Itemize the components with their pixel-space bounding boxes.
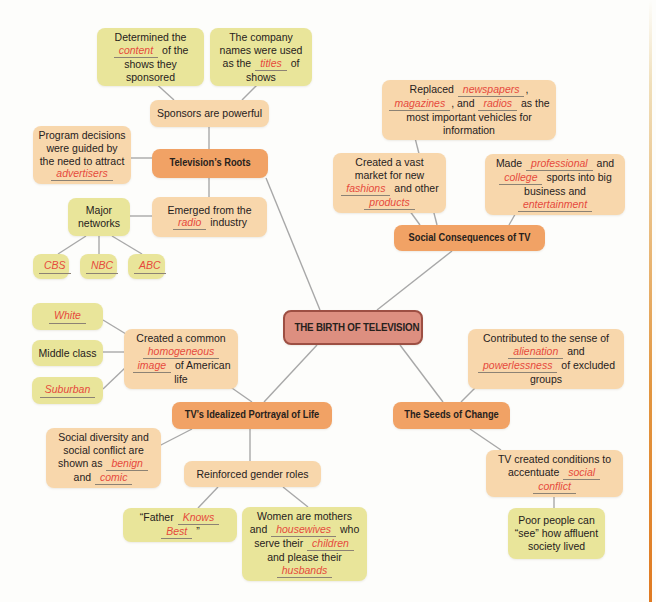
node-homogeneous-image-label: Created a common homogeneous image of Am… [129,332,233,386]
node-middle-class-label: Middle class [37,347,98,360]
node-sponsors-powerful-label: Sponsors are powerful [155,107,264,120]
connector-line [266,178,320,310]
node-contributed-alienation-label: Contributed to the sense of alienation a… [473,332,619,386]
text-segment: Created a vast market for new [355,156,424,181]
text-segment: Created a common [136,332,225,344]
node-seeds-of-change-label: The Seeds of Change [402,409,502,421]
concept-map: Determined the content of the shows they… [0,0,656,602]
text-segment: Program decisions were guided by the nee… [39,129,126,167]
node-white-label: White [37,309,98,323]
node-seeds-of-change: The Seeds of Change [393,402,510,429]
node-abc-label: ABC [133,259,160,273]
text-segment: Emerged from the [167,204,251,216]
text-segment: and [594,157,614,169]
blank-word: NBC [86,260,118,273]
node-major-networks-label: Major networks [73,204,125,230]
text-segment: Major networks [78,204,120,229]
node-women-mothers-label: Women are mothers and housewives who ser… [247,510,362,578]
blank-word: social [563,467,600,480]
text-segment: of American life [172,359,230,385]
node-idealized-portrayal: TV’s Idealized Portrayal of Life [172,402,332,429]
blank-word: benign [106,458,148,471]
node-social-diversity-label: Social diversity and social conflict are… [51,431,156,485]
node-abc: ABC [128,254,165,279]
blank-word: image [133,360,172,373]
blank-word: entertainment [518,199,592,212]
node-birth-of-television: THE BIRTH OF TELEVISION [283,310,423,345]
node-social-consequences-label: Social Consequences of TV [404,232,535,244]
text-segment: “Father [140,511,177,523]
blank-word: conflict [533,481,576,494]
blank-word: husbands [277,565,333,578]
node-major-networks: Major networks [68,198,130,236]
blank-word: CBS [39,260,71,273]
text-segment: Replaced [410,83,457,95]
node-suburban: Suburban [32,377,103,404]
text-segment: Poor people can “see” how affluent socie… [515,514,598,552]
blank-word: alienation [508,346,563,359]
node-idealized-portrayal-label: TV’s Idealized Portrayal of Life [182,409,322,421]
text-segment: Determined the [115,31,187,43]
blank-word: newspapers [458,84,525,97]
blank-word: fashions [341,183,390,196]
node-contributed-alienation: Contributed to the sense of alienation a… [468,329,624,389]
node-father-knows-best: “Father Knows Best ” [123,508,237,542]
node-white: White [32,303,103,330]
text-segment: ” [193,525,199,537]
text-segment: and other [391,182,438,194]
node-women-mothers: Women are mothers and housewives who ser… [242,507,367,581]
connector-line [58,236,86,254]
node-made-sports-label: Made professional and college sports int… [490,157,620,212]
node-social-diversity: Social diversity and social conflict are… [46,428,161,488]
node-replaced-media-label: Replaced newspapers, magazines, and radi… [387,83,551,137]
text-segment: The Seeds of Change [404,409,499,420]
blank-word: products [364,197,414,210]
connector-line [400,345,443,402]
connector-line [377,251,452,310]
node-vast-market: Created a vast market for new fashions a… [333,153,446,213]
blank-word: advertisers [51,168,112,181]
text-segment: Contributed to the sense of [483,332,609,344]
text-segment: and [74,471,94,483]
node-middle-class: Middle class [32,340,103,366]
blank-word: housewives [271,524,336,537]
blank-word: radio [173,217,206,230]
text-segment: Sponsors are powerful [157,107,262,119]
text-segment: Social Consequences of TV [409,232,531,243]
node-nbc: NBC [80,254,117,279]
node-birth-of-television-label: THE BIRTH OF TELEVISION [294,321,411,334]
node-nbc-label: NBC [85,259,112,273]
node-gender-roles-label: Reinforced gender roles [189,468,316,481]
blank-word: Suburban [40,384,96,397]
node-sponsors-powerful: Sponsors are powerful [150,100,269,127]
blank-word: magazines [389,98,450,111]
blank-word: White [49,310,86,323]
node-vast-market-label: Created a vast market for new fashions a… [338,156,441,210]
connector-line [470,429,501,450]
node-emerged-radio: Emerged from the radio industry [152,197,267,237]
text-segment: and please their [267,551,342,563]
node-poor-people-label: Poor people can “see” how affluent socie… [513,514,600,552]
node-tv-conditions: TV created conditions to accentuate soci… [486,450,623,497]
connector-line [103,320,126,334]
text-segment: Reinforced gender roles [196,468,308,480]
node-replaced-media: Replaced newspapers, magazines, and radi… [382,80,556,140]
node-suburban-label: Suburban [37,383,98,397]
node-homogeneous-image: Created a common homogeneous image of Am… [124,329,238,389]
blank-word: college [499,172,542,185]
node-tv-conditions-label: TV created conditions to accentuate soci… [491,453,618,494]
blank-word: comic [95,472,132,485]
node-program-decisions-label: Program decisions were guided by the nee… [38,129,126,181]
node-program-decisions: Program decisions were guided by the nee… [33,126,131,184]
node-televisions-roots: Television’s Roots [152,149,268,178]
blank-word: content [114,45,158,58]
connector-line [103,367,126,389]
node-company-names: The company names were used as the title… [210,28,312,86]
text-segment: , [525,83,528,95]
blank-word: Best [161,526,192,539]
blank-word: ABC [134,260,166,273]
connector-line [198,487,218,508]
node-company-names-label: The company names were used as the title… [215,31,307,83]
blank-word: professional [526,158,593,171]
text-segment: THE BIRTH OF TELEVISION [294,321,419,333]
